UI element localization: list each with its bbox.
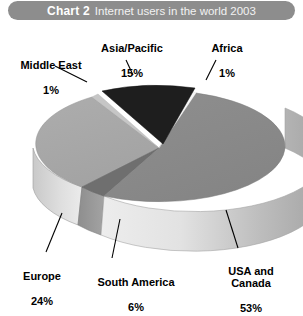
pie-label-south-america-name: South America (84, 276, 188, 289)
pie-label-africa-value: 1% (196, 67, 258, 80)
pie-label-south-america-value: 6% (84, 301, 188, 314)
pie-chart-area: Middle East 1% Asia/Pacific 15% Africa 1… (0, 20, 303, 284)
pie-label-europe-value: 24% (6, 295, 78, 308)
pie-label-asia-pacific-name: Asia/Pacific (86, 42, 178, 55)
pie-label-middle-east-name: Middle East (4, 59, 98, 72)
pie-label-asia-pacific-value: 15% (86, 67, 178, 80)
pie-label-south-america: South America 6% (84, 263, 188, 316)
pie-label-africa-name: Africa (196, 42, 258, 55)
pie-label-middle-east-value: 1% (4, 84, 98, 97)
chart-title-banner: Chart 2 Internet users in the world 2003 (8, 1, 295, 20)
chart-title-text: Internet users in the world 2003 (95, 5, 256, 17)
leader-line-europe (46, 213, 62, 252)
chart-number-label: Chart 2 (47, 4, 90, 18)
pie-label-asia-pacific: Asia/Pacific 15% (86, 29, 178, 92)
pie-label-europe: Europe 24% (6, 257, 78, 316)
pie-label-europe-name: Europe (6, 270, 78, 283)
pie-label-usa-canada: USA and Canada 53% (210, 252, 292, 316)
pie-label-africa: Africa 1% (196, 29, 258, 92)
pie-label-usa-canada-value: 53% (210, 302, 292, 315)
pie-label-middle-east: Middle East 1% (4, 46, 98, 109)
pie-label-usa-canada-name: USA and Canada (210, 265, 292, 290)
